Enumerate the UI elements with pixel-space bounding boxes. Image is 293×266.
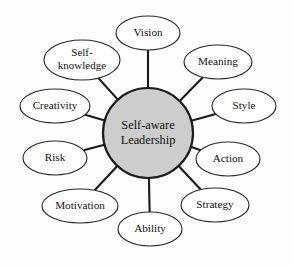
- hub-label-line1: Self-aware: [121, 118, 175, 132]
- satellite-node-style[interactable]: Style: [212, 89, 276, 123]
- satellite-label-strategy: Strategy: [196, 198, 234, 210]
- spoke-creativity: [85, 115, 106, 121]
- satellite-label-creativity: Creativity: [33, 99, 78, 111]
- spoke-strategy: [178, 165, 201, 189]
- satellite-node-action[interactable]: Action: [196, 142, 260, 176]
- satellite-label-self-knowledge-line1: Self-: [71, 46, 93, 58]
- satellite-label-motivation: Motivation: [55, 199, 105, 211]
- diagram-container: VisionMeaningStyleActionStrategyAbilityM…: [0, 0, 293, 266]
- satellite-label-action: Action: [213, 152, 244, 164]
- satellite-label-style: Style: [233, 99, 256, 111]
- satellite-node-strategy[interactable]: Strategy: [181, 188, 249, 222]
- satellite-node-motivation[interactable]: Motivation: [42, 189, 118, 223]
- satellite-node-self-knowledge[interactable]: Self-knowledge: [44, 40, 120, 80]
- hub-node-group: Self-aware Leadership: [103, 88, 193, 178]
- satellite-node-vision[interactable]: Vision: [116, 16, 180, 50]
- spoke-meaning: [179, 77, 203, 101]
- radial-diagram: VisionMeaningStyleActionStrategyAbilityM…: [0, 0, 293, 266]
- satellite-label-vision: Vision: [133, 26, 163, 38]
- satellite-node-creativity[interactable]: Creativity: [20, 89, 90, 123]
- satellite-label-ability: Ability: [134, 222, 166, 234]
- satellite-node-ability[interactable]: Ability: [118, 212, 182, 246]
- satellite-label-risk: Risk: [45, 151, 66, 163]
- spoke-motivation: [95, 165, 118, 190]
- satellite-node-risk[interactable]: Risk: [23, 141, 87, 175]
- hub-label-line2: Leadership: [121, 133, 176, 147]
- satellite-label-self-knowledge-line2: knowledge: [58, 59, 106, 71]
- spoke-ability: [149, 177, 150, 212]
- satellite-label-meaning: Meaning: [198, 55, 238, 67]
- spoke-risk: [84, 144, 106, 150]
- spoke-style: [190, 114, 215, 121]
- satellite-node-meaning[interactable]: Meaning: [184, 45, 252, 79]
- spoke-self-knowledge: [98, 78, 118, 100]
